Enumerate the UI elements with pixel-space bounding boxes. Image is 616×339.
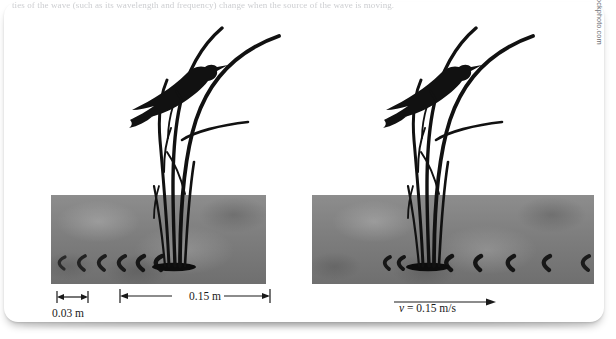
reed-stalks-icon xyxy=(154,28,279,266)
label-wavelength-003: 0.03 m xyxy=(52,307,84,319)
photo-credit: © Jean Labombarde/iStockphoto.com / © To… xyxy=(593,0,605,26)
reed-stalks-icon xyxy=(408,28,533,266)
label-velocity: v = 0.15 m/s xyxy=(399,302,456,314)
water-ripple-icon xyxy=(59,256,162,270)
velocity-value: = 0.15 m/s xyxy=(404,302,456,314)
measurement-rules-left xyxy=(52,288,302,310)
label-span-015: 0.15 m xyxy=(189,290,221,302)
right-panel xyxy=(304,10,594,310)
card-drop-shadow xyxy=(22,322,588,329)
left-panel xyxy=(34,10,304,310)
left-scene-artwork xyxy=(34,10,304,310)
figure-card: ties of the wave (such as its wavelength… xyxy=(4,2,604,322)
right-scene-artwork xyxy=(304,10,594,310)
